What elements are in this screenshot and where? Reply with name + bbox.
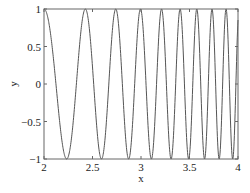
y-axis-ticks: −1−0.500.51 xyxy=(21,3,238,165)
y-tick-label: 0.5 xyxy=(27,41,41,53)
x-tick-label: 3.5 xyxy=(183,161,197,173)
x-tick-label: 4 xyxy=(235,161,241,173)
x-axis-label: x xyxy=(138,172,144,184)
x-tick-label: 2.5 xyxy=(86,161,100,173)
x-axis-ticks: 22.533.54 xyxy=(41,9,241,173)
y-tick-label: −1 xyxy=(29,153,41,165)
y-axis-label: y xyxy=(7,81,19,87)
line-chart: 22.533.54 −1−0.500.51 x y xyxy=(0,0,250,193)
plot-frame xyxy=(44,9,238,159)
curve-layer xyxy=(44,9,238,159)
y-tick-label: 1 xyxy=(36,3,42,15)
y-tick-label: 0 xyxy=(36,78,42,90)
series-line xyxy=(44,9,238,159)
y-tick-label: −0.5 xyxy=(21,116,41,128)
x-tick-label: 2 xyxy=(41,161,47,173)
